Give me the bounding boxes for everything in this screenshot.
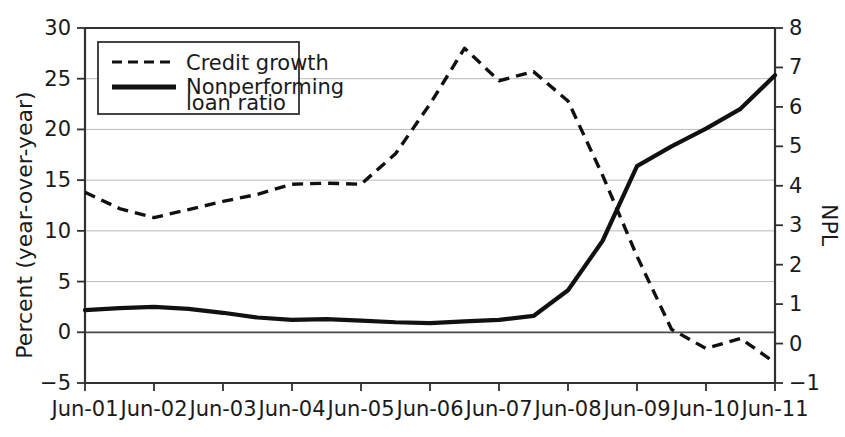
legend-label-credit-growth: Credit growth bbox=[186, 51, 329, 75]
y2-axis-tick-label: 3 bbox=[789, 213, 802, 237]
x-axis-tick-label: Jun-01 bbox=[49, 397, 118, 421]
x-axis-tick-label: Jun-06 bbox=[394, 397, 463, 421]
y2-axis-tick-label: 7 bbox=[789, 55, 802, 79]
y2-axis-tick-label: 0 bbox=[789, 332, 802, 356]
x-axis-tick-label: Jun-03 bbox=[187, 397, 256, 421]
y2-axis-tick-label: 5 bbox=[789, 134, 802, 158]
y-axis-tick-label: 20 bbox=[44, 117, 71, 141]
y2-axis-tick-label: 6 bbox=[789, 95, 802, 119]
x-axis-labels: Jun-01Jun-02Jun-03Jun-04Jun-05Jun-06Jun-… bbox=[49, 397, 808, 421]
y2-axis-tick-label: 8 bbox=[789, 16, 802, 40]
credit-growth-npl-chart: 302520151050−5 876543210−1 Jun-01Jun-02J… bbox=[0, 0, 845, 437]
x-axis-tick-label: Jun-07 bbox=[463, 397, 532, 421]
x-axis-tick-label: Jun-04 bbox=[256, 397, 325, 421]
x-axis-tick-label: Jun-02 bbox=[118, 397, 187, 421]
x-axis-tick-label: Jun-05 bbox=[325, 397, 394, 421]
y-axis-tick-label: 15 bbox=[44, 168, 71, 192]
y-axis-tick-label: 0 bbox=[58, 320, 71, 344]
y-axis-tick-label: −5 bbox=[40, 371, 71, 395]
y-axis-tick-label: 25 bbox=[44, 67, 71, 91]
x-axis-tick-label: Jun-09 bbox=[601, 397, 670, 421]
y2-axis-title: NPL bbox=[817, 204, 842, 247]
chart-page: 302520151050−5 876543210−1 Jun-01Jun-02J… bbox=[0, 0, 845, 437]
y2-axis-tick-label: 2 bbox=[789, 253, 802, 277]
y-axis-tick-label: 10 bbox=[44, 219, 71, 243]
y-axis-tick-label: 30 bbox=[44, 16, 71, 40]
y-axis-title: Percent (year-over-year) bbox=[12, 91, 37, 358]
x-axis-tick-label: Jun-10 bbox=[670, 397, 739, 421]
y2-axis-tick-label: 4 bbox=[789, 174, 802, 198]
legend-label-npl-ratio-line2: loan ratio bbox=[186, 91, 286, 115]
x-axis-tick-label: Jun-11 bbox=[739, 397, 808, 421]
y2-axis-tick-label: −1 bbox=[789, 371, 820, 395]
x-axis-tick-label: Jun-08 bbox=[532, 397, 601, 421]
y-axis-tick-label: 5 bbox=[58, 270, 71, 294]
y2-axis-tick-label: 1 bbox=[789, 292, 802, 316]
